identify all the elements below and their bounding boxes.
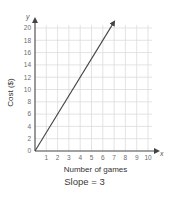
series xyxy=(35,22,114,151)
y-tick-label: 0 xyxy=(27,147,31,154)
x-tick-label: 5 xyxy=(90,154,94,161)
x-tick-label: 6 xyxy=(101,154,105,161)
chart: 1234567891002468101214161820 x y Number … xyxy=(0,0,169,198)
x-axis-title: Number of games xyxy=(64,165,128,174)
y-tick-label: 18 xyxy=(24,37,32,44)
x-tick-label: 2 xyxy=(56,154,60,161)
x-tick-label: 3 xyxy=(67,154,71,161)
y-tick-label: 8 xyxy=(27,98,31,105)
x-axis-letter: x xyxy=(159,150,164,157)
tick-labels: 1234567891002468101214161820 xyxy=(24,24,152,161)
y-tick-label: 20 xyxy=(24,24,32,31)
x-tick-label: 4 xyxy=(78,154,82,161)
slope-caption: Slope = 3 xyxy=(0,176,169,187)
y-tick-label: 6 xyxy=(27,110,31,117)
y-tick-label: 14 xyxy=(24,61,32,68)
y-tick-label: 12 xyxy=(24,74,32,81)
grid xyxy=(35,25,152,151)
series-line xyxy=(35,22,114,151)
x-tick-label: 7 xyxy=(112,154,116,161)
y-axis-title: Cost ($) xyxy=(6,78,15,107)
x-tick-label: 8 xyxy=(124,154,128,161)
y-tick-label: 4 xyxy=(27,123,31,130)
x-tick-label: 10 xyxy=(144,154,152,161)
y-tick-label: 2 xyxy=(27,135,31,142)
y-axis-letter: y xyxy=(25,13,30,21)
x-tick-label: 1 xyxy=(44,154,48,161)
x-tick-label: 9 xyxy=(135,154,139,161)
y-tick-label: 10 xyxy=(24,86,32,93)
axes xyxy=(35,19,158,151)
y-tick-label: 16 xyxy=(24,49,32,56)
